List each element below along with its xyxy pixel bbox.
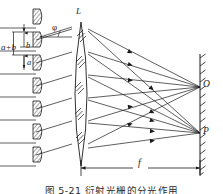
arrowhead-icon [150,129,155,134]
optics-diagram-svg [0,0,223,194]
figure-container: a+b b a φ L O P f 图 5-21 衍射光栅的分光作用 [0,0,223,194]
converging-ray-to-O [88,29,200,87]
grating-strip [33,9,42,24]
label-focal-length: f [138,159,141,169]
figure-caption: 图 5-21 衍射光栅的分光作用 [0,183,223,194]
grating-exit-ray [36,52,72,63]
label-grating-period: a+b [1,43,16,52]
screen-hatch-group [200,54,206,175]
converging-ray-to-O [88,87,200,98]
grating-exit-ray [36,121,72,132]
grating-exit-ray [36,144,72,155]
grating-exit-ray [36,98,72,109]
arrowhead-icon [127,62,133,68]
label-diffraction-angle: φ [52,23,57,32]
converging-ray-to-P [88,54,200,133]
arrowhead-icon [127,121,133,127]
observation-screen [200,54,206,175]
label-focus-p: P [203,127,209,137]
label-opaque-strip-width: b [26,41,30,50]
label-focus-o: O [203,80,210,90]
lens-body [75,22,87,166]
converging-lens [75,22,87,166]
rays-to-focus-P [88,31,200,148]
label-slit-width: a [27,58,31,67]
label-lens: L [76,7,81,16]
ray-direction-arrowheads [127,49,155,143]
grating-exit-ray [36,75,72,86]
arrowhead-icon [128,78,133,83]
converging-ray-to-O [88,87,200,121]
